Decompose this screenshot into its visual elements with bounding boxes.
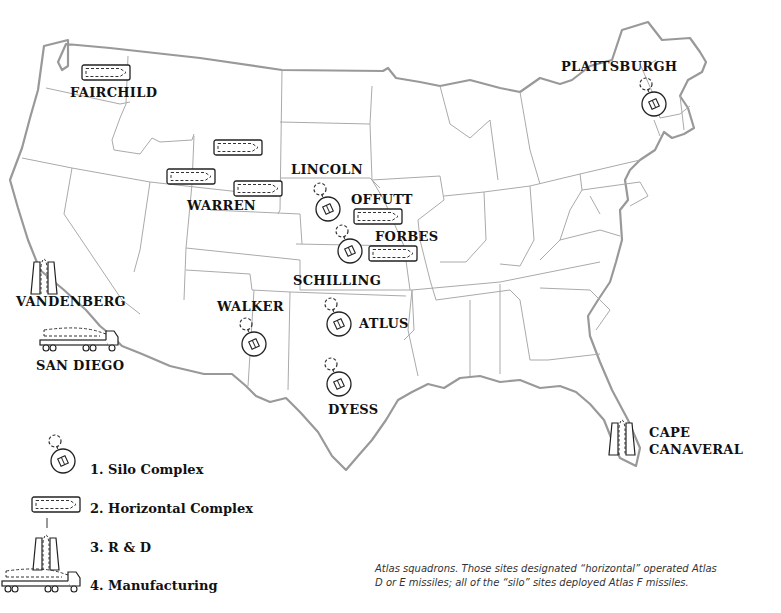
legend-item-horizontal: 2. Horizontal Complex: [90, 501, 253, 516]
label-canaveral: CANAVERAL: [649, 442, 743, 457]
label-lincoln: LINCOLN: [291, 162, 363, 177]
caption-line-2: D or E missiles; all of the “silo” sites…: [375, 576, 755, 590]
warren-icon-2: [167, 169, 215, 184]
label-dyess: DYESS: [328, 402, 378, 417]
legend-silo-icon: [49, 435, 75, 473]
warren-icon-3: [234, 181, 282, 196]
caption: Atlas squadrons. Those sites designated …: [375, 562, 755, 590]
legend-item-manufacturing: 4. Manufacturing: [90, 578, 218, 593]
legend-transport-truck-icon: [2, 569, 80, 592]
legend-launch-tower-icon: [33, 518, 59, 570]
warren-icon-1: [214, 140, 262, 155]
legend-horizontal-complex-icon: [32, 497, 80, 512]
label-offutt: OFFUTT: [351, 192, 413, 207]
label-vandenberg: VANDENBERG: [16, 294, 126, 309]
san-diego-truck-icon: [40, 328, 118, 351]
label-walker: WALKER: [217, 299, 284, 314]
label-plattsburgh: PLATTSBURGH: [561, 59, 677, 74]
offutt-icon: [354, 209, 402, 224]
label-san-diego: SAN DIEGO: [36, 358, 124, 373]
label-warren: WARREN: [187, 198, 256, 213]
fairchild-icon: [82, 65, 130, 80]
legend-item-rd: 3. R & D: [90, 540, 151, 555]
forbes-icon: [369, 246, 417, 261]
caption-line-1: Atlas squadrons. Those sites designated …: [375, 562, 755, 576]
label-cape: CAPE: [649, 425, 690, 440]
label-fairchild: FAIRCHILD: [70, 85, 157, 100]
label-schilling: SCHILLING: [293, 273, 381, 288]
legend-item-silo: 1. Silo Complex: [90, 462, 203, 477]
label-forbes: FORBES: [375, 229, 438, 244]
label-atlus: ATLUS: [359, 316, 409, 331]
